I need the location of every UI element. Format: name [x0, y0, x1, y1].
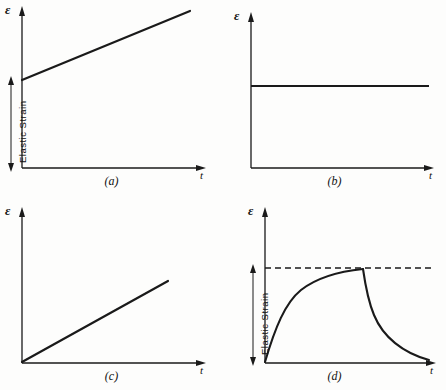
- panel-d-plot: [223, 195, 446, 390]
- y-axis-label: ε: [5, 3, 10, 16]
- panel-c: ε t (c): [0, 195, 223, 390]
- elastic-strain-arrow-down-icon: [8, 163, 14, 172]
- elastic-strain-arrow-up-icon: [250, 264, 256, 273]
- panel-a: ε t Elastic Strain (a): [0, 0, 223, 195]
- elastic-strain-annotation: Elastic Strain: [17, 101, 28, 163]
- strain-curve: [22, 11, 190, 80]
- panel-c-plot: [0, 195, 223, 390]
- y-axis-arrowhead: [19, 207, 25, 217]
- panel-caption: (b): [223, 174, 446, 189]
- elastic-strain-annotation: Elastic Strain: [259, 293, 270, 355]
- elastic-strain-arrow-down-icon: [250, 357, 256, 366]
- y-axis-arrowhead: [248, 12, 254, 22]
- figure-strain-vs-time: ε t Elastic Strain (a) ε t (b) ε t (c): [0, 0, 446, 390]
- elastic-strain-arrow-up-icon: [8, 76, 14, 85]
- strain-curve-unloading: [363, 269, 429, 360]
- panel-d: ε t Elastic Strain (d): [223, 195, 446, 390]
- panel-b: ε t (b): [223, 0, 446, 195]
- y-axis-label: ε: [5, 204, 10, 217]
- panel-b-plot: [223, 0, 446, 195]
- y-axis-label: ε: [234, 9, 239, 22]
- panel-caption: (d): [223, 369, 446, 384]
- panel-caption: (a): [0, 174, 223, 189]
- y-axis-arrowhead: [19, 6, 25, 16]
- strain-curve-loading: [265, 269, 363, 362]
- y-axis-arrowhead: [262, 207, 268, 217]
- panel-a-plot: [0, 0, 223, 195]
- strain-curve: [22, 281, 168, 362]
- panel-caption: (c): [0, 369, 223, 384]
- y-axis-label: ε: [248, 204, 253, 217]
